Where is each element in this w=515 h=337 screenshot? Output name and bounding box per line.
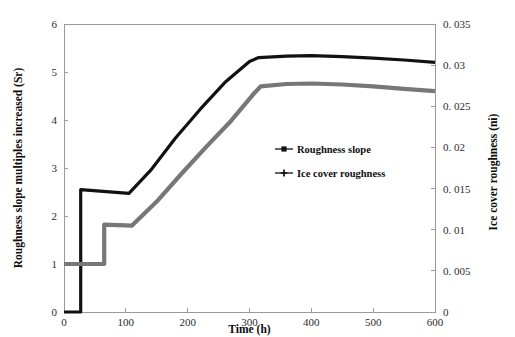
chart-figure: 0100200300400500600 0123456 00. 0050. 01… — [0, 0, 515, 337]
y-axis-tick-labels: 0123456 — [52, 18, 58, 318]
x-tick-label: 0 — [61, 316, 67, 328]
x-tick-label: 600 — [427, 316, 444, 328]
x-tick-label: 200 — [179, 316, 196, 328]
y2-tick-label: 0 — [443, 306, 449, 318]
x-tick-label: 400 — [303, 316, 320, 328]
y2-tick-label: 0. 035 — [443, 18, 471, 30]
chart-legend[interactable]: Roughness slopeIce cover roughness — [275, 144, 385, 179]
y-tick-label: 0 — [52, 306, 58, 318]
legend-marker-square — [281, 146, 286, 151]
y2-axis-title: Ice cover roughness (ni) — [487, 113, 500, 230]
y2-tick-label: 0. 015 — [443, 183, 471, 195]
y-tick-label: 2 — [52, 210, 58, 222]
y-tick-label: 3 — [52, 162, 58, 174]
y2-axis-tick-labels: 00. 0050. 010. 0150. 020. 0250. 030. 035 — [443, 18, 471, 318]
legend-item-label[interactable]: Ice cover roughness — [297, 168, 385, 179]
data-series — [64, 56, 435, 312]
y2-tick-label: 0. 025 — [443, 100, 471, 112]
chart-canvas: 0100200300400500600 0123456 00. 0050. 01… — [0, 0, 515, 337]
y2-tick-label: 0. 01 — [443, 224, 465, 236]
y-tick-label: 1 — [52, 258, 58, 270]
y2-tick-label: 0. 02 — [443, 141, 465, 153]
y-tick-label: 6 — [52, 18, 58, 30]
y2-tick-label: 0. 005 — [443, 265, 471, 277]
x-tick-label: 500 — [365, 316, 382, 328]
x-tick-label: 100 — [118, 316, 135, 328]
y2-tick-label: 0. 03 — [443, 59, 466, 71]
y-tick-label: 5 — [52, 66, 58, 78]
legend-marker-plus — [281, 170, 288, 177]
y-axis-title: Roughness slope multiples increased (Sr) — [12, 68, 25, 269]
y-tick-label: 4 — [52, 114, 58, 126]
x-axis-title: Time (h) — [228, 323, 270, 336]
series-line — [64, 56, 435, 312]
legend-item-label[interactable]: Roughness slope — [297, 144, 371, 155]
